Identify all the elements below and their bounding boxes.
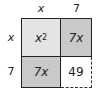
x-squared-exponent: 2 xyxy=(42,33,47,42)
cell-49-text: 49 xyxy=(68,65,83,79)
cell-x-squared: x2 xyxy=(21,18,61,57)
cell-7x-bottom: 7x xyxy=(21,57,61,88)
row-label-7: 7 xyxy=(4,66,18,78)
cell-7x-bottom-text: 7x xyxy=(34,65,49,79)
column-label-x: x xyxy=(21,3,61,15)
x-squared-base: x xyxy=(35,31,42,45)
cell-7x-top: 7x xyxy=(61,18,92,57)
cell-7x-top-text: 7x xyxy=(69,31,84,45)
row-label-x: x xyxy=(4,32,18,44)
column-label-7: 7 xyxy=(61,3,92,15)
cell-49: 49 xyxy=(61,57,92,88)
